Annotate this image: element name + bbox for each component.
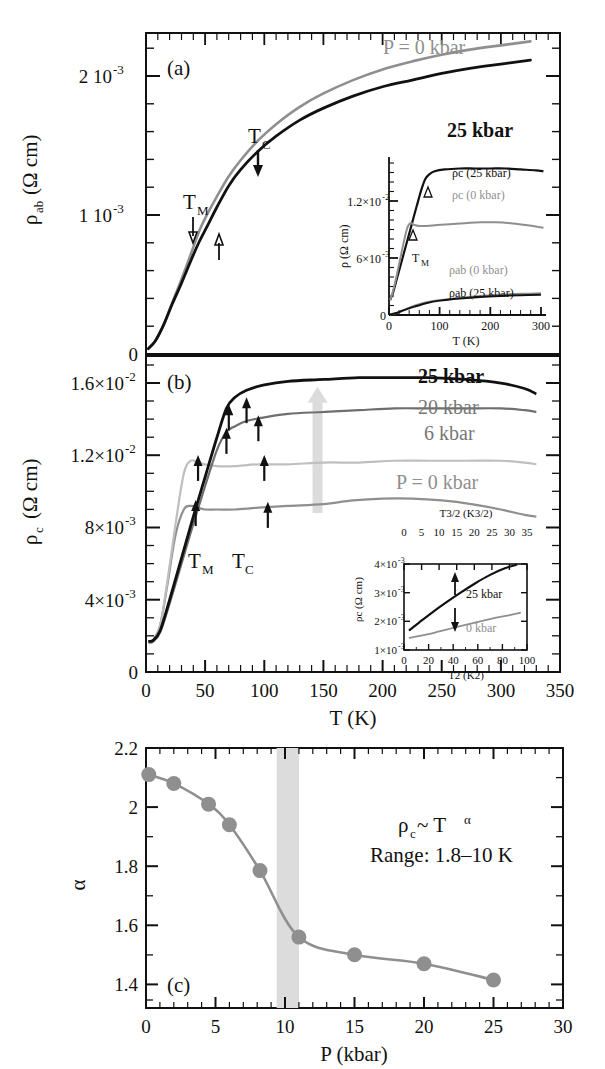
panel-c-ytick-3: 2 — [129, 797, 139, 818]
panel-a-ytick-0: 0 — [129, 344, 139, 365]
panel-c-data-point — [486, 972, 501, 987]
panel-b-xtick-6: 300 — [487, 680, 516, 701]
panel-b-xtick-1: 50 — [196, 680, 215, 701]
panel-b-pressure-arrow — [308, 387, 328, 513]
panel-c-data-point — [201, 797, 216, 812]
svg-text:M: M — [202, 562, 214, 577]
panel-c-annotation-2: Range: 1.8–10 K — [370, 843, 513, 867]
panel-b-xtick-7: 350 — [546, 680, 575, 701]
panel-b-inset-bot-tick-3: 60 — [472, 654, 484, 666]
svg-text:8×10: 8×10 — [85, 517, 124, 538]
svg-text:-3: -3 — [125, 586, 136, 601]
panel-a-inset-xtick-3: 300 — [532, 319, 550, 333]
panel-c-data-point — [291, 930, 306, 945]
panel-b-id: (b) — [167, 370, 192, 394]
svg-text:1×10: 1×10 — [374, 644, 397, 656]
panel-a-inset-label-3: ρab (25 kbar) — [449, 286, 514, 300]
panel-a-label-p25: 25 kbar — [447, 119, 513, 141]
svg-text:4×10: 4×10 — [374, 558, 397, 570]
panel-c-ytick-2: 1.8 — [114, 856, 138, 877]
svg-text:T: T — [412, 251, 420, 265]
panel-c-points — [141, 767, 501, 987]
panel-b-label-6: 6 kbar — [424, 422, 475, 444]
panel-c-xtick-3: 15 — [345, 1016, 364, 1037]
svg-text:-3: -3 — [398, 585, 405, 594]
panel-c-data-point — [166, 776, 181, 791]
panel-c-data-point — [347, 947, 362, 962]
panel-b-inset-ytick-2: 3×10 -3 — [374, 585, 404, 599]
panel-c-ytick-4: 2.2 — [114, 738, 138, 759]
panel-b-ylabel: ρ c (Ω cm) — [18, 458, 46, 545]
panel-b-label-20: 20 kbar — [418, 396, 479, 418]
panel-c-xtick-1: 5 — [211, 1016, 221, 1037]
figure-svg: 0 1 10 -3 2 10 -3 ρ ab (Ω cm) (a) P = 0 … — [0, 0, 605, 1069]
svg-text:1.2×10: 1.2×10 — [347, 195, 381, 209]
panel-b-inset-top-tick-0: 0 — [401, 526, 407, 538]
panel-a-inset-ylabel: ρ (Ω cm) — [337, 224, 351, 268]
panel-c-annotation-1: ρ c ~ T α — [398, 812, 471, 841]
panel-b-ytick-1: 4×10 -3 — [85, 586, 136, 611]
panel-a-inset-xtick-1: 100 — [431, 319, 449, 333]
panel-b-tm-label: T M — [188, 549, 214, 577]
panel-c-xticks-major — [146, 748, 563, 1008]
panel-b-inset-bot-tick-0: 0 — [401, 654, 407, 666]
panel-b-frame — [146, 356, 560, 672]
svg-text:ρ: ρ — [18, 535, 42, 545]
panel-b-inset-top-tick-4: 20 — [469, 526, 481, 538]
svg-text:-3: -3 — [398, 556, 405, 565]
svg-text:T: T — [188, 549, 201, 573]
panel-b-ytick-2: 8×10 -3 — [85, 513, 136, 538]
panel-c-xtick-5: 25 — [484, 1016, 503, 1037]
svg-text:-2: -2 — [125, 369, 136, 384]
panel-b-ytick-0: 0 — [129, 662, 139, 683]
panel-b-xlabel: T (K) — [330, 706, 377, 730]
svg-text:-2: -2 — [125, 441, 136, 456]
panel-b-inset-top-tick-1: 5 — [419, 526, 425, 538]
panel-a-inset-label-1: ρc (0 kbar) — [452, 188, 505, 202]
panel-a-label-p0: P = 0 kbar — [383, 36, 466, 58]
panel-b-inset-yticks — [404, 564, 527, 650]
panel-a-inset-xtick-2: 200 — [481, 319, 499, 333]
svg-text:α: α — [66, 879, 90, 890]
panel-b-pressure-arrow-shaft — [313, 401, 323, 513]
svg-text:T3/2 (K3/2): T3/2 (K3/2) — [440, 507, 493, 520]
panel-c-xlabel: P (kbar) — [320, 1042, 387, 1066]
svg-text:-3: -3 — [398, 613, 405, 622]
panel-a-inset-ytick-1: 6×10 -3 — [356, 249, 390, 266]
panel-a-ylabel: ρ ab (Ω cm) — [18, 134, 46, 225]
panel-a-inset-xtick-0: 0 — [386, 319, 392, 333]
panel-b-inset-top-tick-3: 15 — [451, 526, 463, 538]
svg-text:2×10: 2×10 — [374, 615, 397, 627]
svg-text:-2: -2 — [382, 192, 390, 202]
svg-text:~ T: ~ T — [417, 813, 446, 837]
svg-text:c: c — [31, 527, 46, 533]
panel-b-xtick-2: 100 — [250, 680, 279, 701]
panel-b-inset-bot-tick-4: 80 — [497, 654, 509, 666]
panel-a-id: (a) — [167, 56, 190, 80]
svg-text:ρ (Ω cm): ρ (Ω cm) — [337, 224, 351, 268]
svg-text:α: α — [464, 812, 471, 827]
svg-text:-3: -3 — [398, 642, 405, 651]
panel-b-inset-xlabel-top: T3/2 (K3/2) — [440, 507, 493, 520]
panel-a-inset-ytick-2: 1.2×10 -2 — [347, 192, 389, 209]
panel-a-inset-label-2: ρab (0 kbar) — [449, 263, 508, 277]
svg-text:2 10: 2 10 — [79, 66, 112, 87]
svg-text:c: c — [410, 826, 416, 841]
panel-b-inset-top-tick-5: 25 — [486, 526, 498, 538]
svg-text:-3: -3 — [382, 249, 390, 259]
panel-b-label-25: 25 kbar — [418, 365, 484, 387]
panel-a-xticks-top — [146, 33, 560, 45]
panel-b-inset-top-tick-6: 30 — [504, 526, 516, 538]
panel-b-inset: T3/2 (K3/2) 0 5 10 15 20 25 30 35 0 20 4… — [352, 507, 536, 682]
panel-b-inset-label-25: 25 kbar — [466, 587, 502, 601]
panel-c-data-point — [141, 767, 156, 782]
panel-b-xticks-minor — [158, 665, 548, 672]
panel-c-id: (c) — [167, 973, 190, 997]
panel-b-marker-arrowhead — [242, 397, 251, 408]
panel-b-label-0: P = 0 kbar — [396, 471, 479, 493]
panel-a-inset: 0 100 200 300 0 6×10 -3 1.2×10 -2 T (K) … — [337, 157, 550, 348]
panel-b-inset-bot-tick-2: 40 — [448, 654, 460, 666]
svg-text:1.2×10: 1.2×10 — [71, 445, 124, 466]
panel-a-inset-ytick-0: 0 — [380, 309, 386, 323]
svg-text:3×10: 3×10 — [374, 587, 397, 599]
